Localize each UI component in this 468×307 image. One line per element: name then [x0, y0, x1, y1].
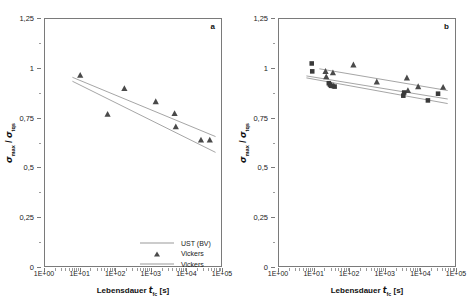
data-point-triangle: [440, 84, 446, 90]
x-tick-mark-minor: [341, 268, 342, 271]
legend-label: UST (BV): [177, 240, 211, 247]
x-tick-mark-minor: [176, 268, 177, 271]
data-point-square: [310, 69, 315, 74]
x-tick-mark-minor: [306, 268, 307, 271]
x-tick-mark-minor: [450, 268, 451, 271]
x-tick-mark-minor: [208, 268, 209, 271]
y-tick-label: 0,25: [19, 213, 34, 222]
x-tick-mark-minor: [413, 268, 414, 271]
panel-b: σmax / σtqs 00,250,50,7511,25 b UST (BV)…: [234, 0, 468, 307]
y-tick-label: 0,75: [253, 113, 268, 122]
x-tick-mark-minor: [197, 268, 198, 271]
x-tick-mark-minor: [431, 268, 432, 271]
y-tick-mark-minor: [39, 43, 42, 44]
x-tick-mark-minor: [114, 268, 115, 271]
x-tick-label: 1E+00: [268, 270, 288, 277]
x-tick-label: 1E+01: [303, 270, 323, 277]
x-tick-mark-minor: [374, 268, 375, 271]
x-tick-mark-minor: [448, 268, 449, 271]
y-tick-mark-minor: [273, 143, 276, 144]
data-point-triangle: [77, 72, 83, 78]
y-tick-mark-minor: [39, 242, 42, 243]
x-tick-mark-minor: [140, 268, 141, 271]
x-tick-mark-minor: [55, 268, 56, 271]
x-tick-mark-minor: [214, 268, 215, 271]
x-tick-mark-minor: [126, 268, 127, 271]
legend-line-swatch: [140, 243, 174, 244]
x-tick-label: 1E+02: [105, 270, 125, 277]
x-axis-title-a: Lebensdauer tfc [s]: [44, 286, 222, 297]
plot-frame-b: b UST (BV)VickersVickersLagerungsdauerLa…: [278, 18, 456, 267]
y-tick-mark: [37, 68, 41, 69]
plot-svg-b: [279, 19, 455, 266]
x-tick-mark-minor: [78, 268, 79, 271]
x-axis-title-b: Lebensdauer tfc [s]: [278, 286, 456, 297]
x-tick-mark-minor: [335, 268, 336, 271]
x-tick-mark-minor: [396, 268, 397, 271]
data-point-square: [309, 61, 314, 66]
x-tick-mark-minor: [203, 268, 204, 271]
legend-triangle-marker: [154, 251, 160, 256]
y-tick-mark-minor: [273, 192, 276, 193]
x-tick-mark-minor: [110, 268, 111, 271]
x-tick-mark-minor: [415, 268, 416, 271]
x-axis-title-suffix: [s]: [157, 286, 169, 295]
legend-label: Vickers: [177, 261, 204, 268]
x-tick-mark-minor: [137, 268, 138, 271]
data-point-triangle: [104, 111, 110, 117]
x-tick-mark-minor: [377, 268, 378, 271]
y-axis-ticks-a: 00,250,50,7511,25: [0, 18, 41, 267]
trend-line: [319, 69, 447, 91]
x-tick-mark-minor: [145, 268, 146, 271]
x-tick-mark-minor: [454, 268, 455, 271]
x-tick-mark-minor: [379, 268, 380, 271]
y-tick-mark: [271, 167, 275, 168]
y-tick-mark: [37, 217, 41, 218]
y-tick-mark-minor: [273, 93, 276, 94]
x-tick-mark-minor: [366, 268, 367, 271]
legend-a: UST (BV)VickersVickers: [137, 238, 211, 270]
x-tick-mark-minor: [344, 268, 345, 271]
x-tick-mark-minor: [220, 268, 221, 271]
data-point-triangle: [173, 123, 179, 129]
y-tick-mark-minor: [273, 242, 276, 243]
legend-item: UST (BV): [137, 238, 211, 249]
x-tick-mark-minor: [299, 268, 300, 271]
y-tick-mark-minor: [39, 93, 42, 94]
x-axis-title-suffix: [s]: [391, 286, 403, 295]
y-tick-mark: [271, 267, 275, 268]
y-tick-mark: [271, 118, 275, 119]
x-tick-mark-minor: [185, 268, 186, 271]
x-tick-mark-minor: [406, 268, 407, 271]
data-point-triangle: [322, 68, 328, 74]
x-tick-mark-minor: [181, 268, 182, 271]
legend-key-triangle: [137, 249, 177, 259]
x-axis-title-prefix: Lebensdauer: [331, 286, 383, 295]
plot-area-b: [279, 19, 455, 266]
x-tick-label: 1E+00: [34, 270, 54, 277]
x-tick-mark-minor: [168, 268, 169, 271]
data-point-triangle: [198, 137, 204, 143]
x-tick-label: 1E+04: [410, 270, 430, 277]
plot-area-a: [45, 19, 221, 266]
data-point-square: [332, 84, 337, 89]
x-tick-label: 1E+03: [375, 270, 395, 277]
x-tick-mark-minor: [172, 268, 173, 271]
y-tick-mark: [37, 18, 41, 19]
panel-a: σmax / σtqs 00,250,50,7511,25 a UST (BV)…: [0, 0, 234, 307]
figure-root: σmax / σtqs 00,250,50,7511,25 a UST (BV)…: [0, 0, 468, 307]
x-tick-mark-minor: [69, 268, 70, 271]
legend-key-line: [137, 238, 177, 248]
legend-item: Vickers: [137, 249, 211, 260]
x-tick-mark-minor: [289, 268, 290, 271]
x-tick-label: 1E+02: [339, 270, 359, 277]
data-point-square: [402, 90, 407, 95]
x-axis-ticks-a: 1E+001E+011E+021E+031E+041E+05: [44, 269, 222, 283]
x-axis-title-prefix: Lebensdauer: [97, 286, 149, 295]
y-tick-mark: [271, 68, 275, 69]
x-tick-mark-minor: [383, 268, 384, 271]
trend-line: [72, 81, 215, 152]
data-point-square: [426, 98, 431, 103]
plot-svg-a: [45, 19, 221, 266]
plot-frame-a: a UST (BV)VickersVickers: [44, 18, 222, 267]
